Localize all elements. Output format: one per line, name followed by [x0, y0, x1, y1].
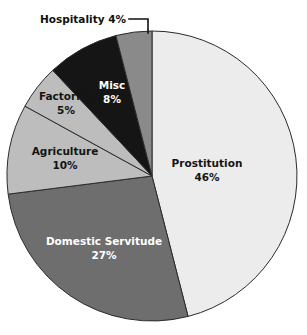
- pie-wedges-group: [7, 31, 297, 321]
- slice-label-name: Factories: [39, 90, 93, 102]
- slice-label-value: 5%: [57, 104, 75, 116]
- slice-label-name: Domestic Servitude: [46, 235, 162, 247]
- slice-label-name: Misc: [99, 79, 126, 91]
- pie-chart-figure: Prostitution46%Domestic Servitude27%Agri…: [0, 0, 307, 335]
- slice-label-value: 27%: [91, 249, 117, 261]
- pie-chart-svg: Prostitution46%Domestic Servitude27%Agri…: [0, 0, 307, 335]
- slice-label-value: 10%: [52, 159, 78, 171]
- slice-label-name: Prostitution: [172, 157, 243, 169]
- slice-label-name: Agriculture: [32, 145, 99, 157]
- slice-label-hospitality: Hospitality 4%: [40, 13, 126, 25]
- slice-label-value: 8%: [103, 93, 121, 105]
- slice-label-value: 46%: [194, 171, 220, 183]
